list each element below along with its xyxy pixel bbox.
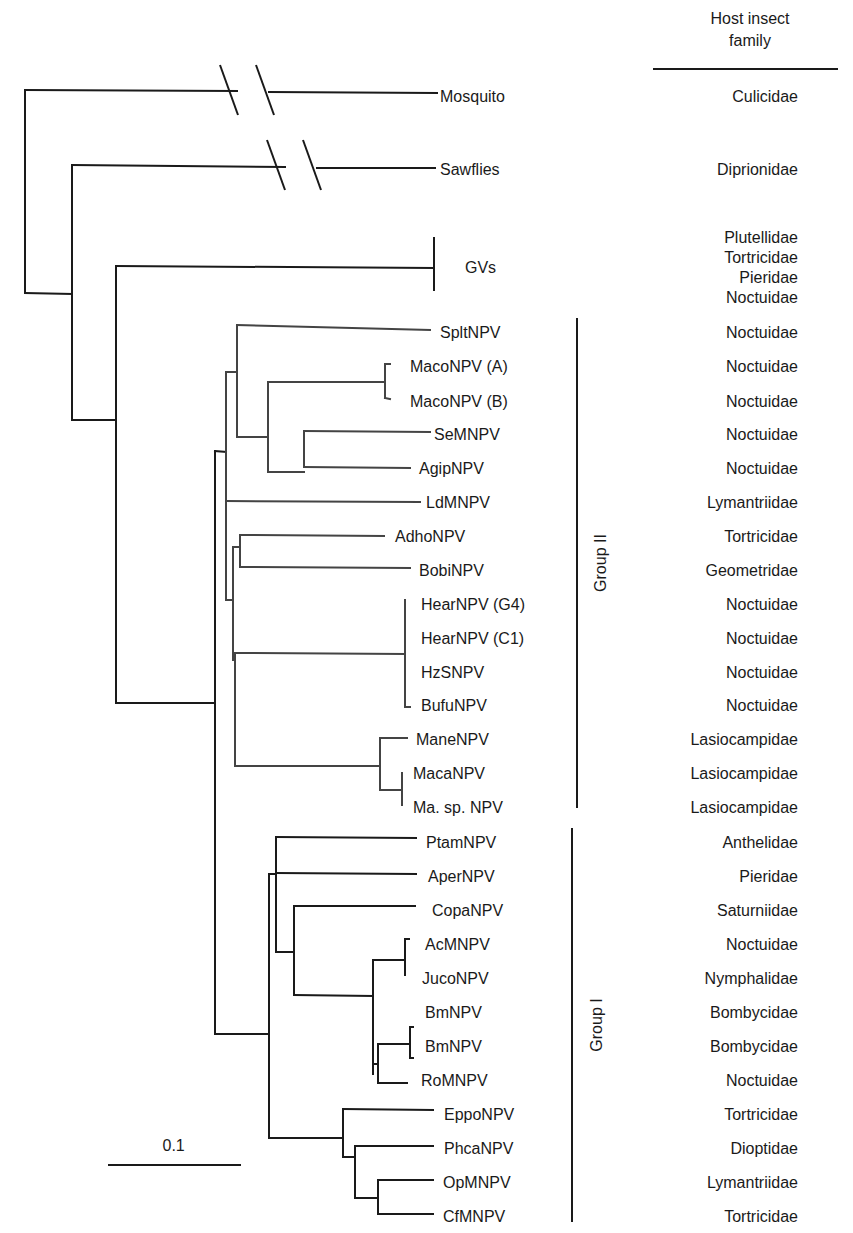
host-family-line: Tortricidae xyxy=(724,248,798,268)
host-family-label: Bombycidae xyxy=(710,1037,798,1057)
host-family-label: Noctuidae xyxy=(726,1071,798,1091)
host-family-line: Anthelidae xyxy=(722,833,798,853)
host-family-line: Plutellidae xyxy=(724,228,798,248)
host-family-label: Bombycidae xyxy=(710,1003,798,1023)
break-mark xyxy=(256,65,274,115)
branch-segment xyxy=(240,567,410,568)
taxon-label: AperNPV xyxy=(428,867,495,887)
scale-bar-label: 0.1 xyxy=(163,1137,185,1155)
host-family-label: Saturniidae xyxy=(717,901,798,921)
branch-segment xyxy=(304,431,430,432)
taxon-label: PtamNPV xyxy=(426,833,496,853)
host-family-label: Lasiocampidae xyxy=(690,730,798,750)
branch-segment xyxy=(215,451,226,452)
tree-branches xyxy=(25,90,437,1214)
taxon-label: AdhoNPV xyxy=(395,527,465,547)
host-family-line: Geometridae xyxy=(706,561,799,581)
branch-segment xyxy=(72,165,285,167)
header-line1: Host insect xyxy=(660,8,840,30)
host-family-label: Noctuidae xyxy=(726,392,798,412)
host-family-line: Lymantriidae xyxy=(707,493,798,513)
host-family-label: Lasiocampidae xyxy=(690,798,798,818)
taxon-label: AgipNPV xyxy=(419,459,484,479)
taxon-label: CopaNPV xyxy=(432,901,503,921)
host-family-label: Noctuidae xyxy=(726,459,798,479)
taxon-label: SeMNPV xyxy=(434,425,500,445)
host-family-label: Culicidae xyxy=(732,87,798,107)
branch-segment xyxy=(276,873,416,874)
branch-segment xyxy=(116,266,434,268)
host-family-line: Noctuidae xyxy=(726,696,798,716)
taxon-label: Mosquito xyxy=(440,87,505,107)
host-family-label: Lymantriidae xyxy=(707,493,798,513)
host-family-line: Tortricidae xyxy=(724,1207,798,1227)
host-family-line: Nymphalidae xyxy=(705,969,798,989)
host-family-line: Tortricidae xyxy=(724,1105,798,1125)
group-label: Group II xyxy=(592,534,610,592)
taxon-label: HzSNPV xyxy=(421,663,484,683)
host-family-label: Lasiocampidae xyxy=(690,764,798,784)
branch-break-marks xyxy=(220,65,321,190)
host-family-label: Tortricidae xyxy=(724,527,798,547)
host-family-line: Lasiocampidae xyxy=(690,764,798,784)
group-bars xyxy=(572,318,577,1222)
taxon-label: ManeNPV xyxy=(416,730,489,750)
host-family-line: Noctuidae xyxy=(726,595,798,615)
branch-segment xyxy=(343,1109,433,1110)
host-family-line: Dioptidae xyxy=(730,1139,798,1159)
host-family-label: Anthelidae xyxy=(722,833,798,853)
host-family-label: Noctuidae xyxy=(726,629,798,649)
branch-segment xyxy=(294,995,373,996)
host-family-line: Pieridae xyxy=(739,867,798,887)
taxon-label: BmNPV xyxy=(425,1037,482,1057)
host-family-label: Geometridae xyxy=(706,561,799,581)
branch-segment xyxy=(237,325,430,330)
host-family-line: Diprionidae xyxy=(717,160,798,180)
host-family-label: Noctuidae xyxy=(726,663,798,683)
branch-segment xyxy=(235,653,405,654)
branch-segment xyxy=(240,535,384,536)
branch-segment xyxy=(25,90,237,91)
column-header: Host insect family xyxy=(660,8,840,52)
host-family-label: Diprionidae xyxy=(717,160,798,180)
host-family-label: Noctuidae xyxy=(726,595,798,615)
host-family-line: Noctuidae xyxy=(726,392,798,412)
break-mark xyxy=(267,140,285,190)
taxon-label: PhcaNPV xyxy=(444,1139,513,1159)
taxon-label: BmNPV xyxy=(425,1003,482,1023)
host-family-label: Lymantriidae xyxy=(707,1173,798,1193)
host-family-line: Saturniidae xyxy=(717,901,798,921)
taxon-label: RoMNPV xyxy=(421,1071,488,1091)
host-family-label: Noctuidae xyxy=(726,357,798,377)
taxon-label: MacoNPV (A) xyxy=(410,357,508,377)
host-family-line: Lasiocampidae xyxy=(690,798,798,818)
taxon-label: OpMNPV xyxy=(443,1173,511,1193)
taxon-label: SpltNPV xyxy=(440,323,500,343)
taxon-label: Sawflies xyxy=(440,160,500,180)
host-family-label: Nymphalidae xyxy=(705,969,798,989)
branch-segment xyxy=(226,501,420,502)
taxon-label: AcMNPV xyxy=(425,935,490,955)
host-family-label: Tortricidae xyxy=(724,1207,798,1227)
host-family-line: Bombycidae xyxy=(710,1003,798,1023)
taxon-label: LdMNPV xyxy=(426,493,490,513)
branch-segment xyxy=(269,92,437,93)
branch-segment xyxy=(385,398,390,399)
host-family-line: Lasiocampidae xyxy=(690,730,798,750)
taxon-label: CfMNPV xyxy=(443,1207,505,1227)
host-family-line: Noctuidae xyxy=(726,459,798,479)
taxon-label: EppoNPV xyxy=(444,1105,514,1125)
taxon-label: GVs xyxy=(465,258,496,278)
taxon-label: BobiNPV xyxy=(419,561,484,581)
host-family-label: PlutellidaeTortricidaePieridaeNoctuidae xyxy=(724,228,798,308)
host-family-label: Noctuidae xyxy=(726,935,798,955)
host-family-line: Noctuidae xyxy=(726,425,798,445)
host-family-line: Noctuidae xyxy=(726,935,798,955)
host-family-label: Noctuidae xyxy=(726,696,798,716)
branch-segment xyxy=(276,837,416,838)
host-family-line: Noctuidae xyxy=(726,1071,798,1091)
host-family-line: Bombycidae xyxy=(710,1037,798,1057)
host-family-label: Pieridae xyxy=(739,867,798,887)
group-label: Group I xyxy=(587,998,605,1051)
host-family-label: Noctuidae xyxy=(726,323,798,343)
